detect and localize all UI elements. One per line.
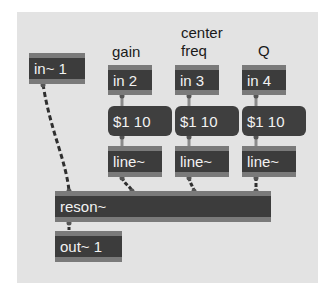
message-text: $1 10: [180, 113, 218, 130]
label-q: Q: [258, 42, 270, 59]
object-label: in 4: [247, 72, 271, 89]
message-box-gain[interactable]: $1 10: [108, 106, 172, 136]
message-box-center-freq[interactable]: $1 10: [175, 106, 239, 136]
object-label: reson~: [60, 198, 106, 215]
object-out-signal-1[interactable]: out~ 1: [55, 231, 122, 262]
label-gain: gain: [112, 43, 140, 60]
object-line-center-freq[interactable]: line~: [175, 146, 229, 177]
object-in-3[interactable]: in 3: [175, 65, 219, 95]
object-reson[interactable]: reson~: [55, 191, 271, 222]
object-label: line~: [113, 153, 145, 170]
object-label: in 2: [113, 72, 137, 89]
message-text: $1 10: [113, 113, 151, 130]
object-label: line~: [180, 153, 212, 170]
object-line-gain[interactable]: line~: [108, 146, 162, 177]
message-text: $1 10: [247, 113, 285, 130]
message-box-q[interactable]: $1 10: [242, 106, 306, 136]
object-in-4[interactable]: in 4: [242, 65, 286, 95]
label-center-freq-line1: center: [181, 24, 223, 41]
object-label: in~ 1: [34, 60, 67, 77]
label-center-freq-line2: freq: [181, 42, 207, 59]
object-in-signal-1[interactable]: in~ 1: [29, 53, 85, 84]
object-line-q[interactable]: line~: [242, 146, 296, 177]
object-in-2[interactable]: in 2: [108, 65, 152, 95]
object-label: out~ 1: [60, 238, 102, 255]
object-label: line~: [247, 153, 279, 170]
object-label: in 3: [180, 72, 204, 89]
